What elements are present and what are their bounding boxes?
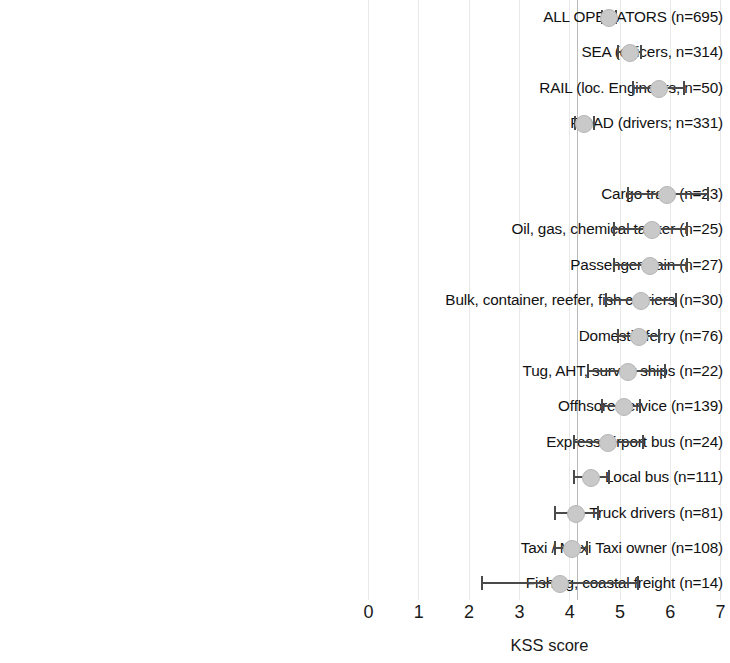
ci-cap-high: [686, 222, 688, 236]
ci-cap-high: [642, 435, 644, 449]
data-row: Local bus (n=111): [0, 466, 723, 488]
ci-cap-high: [664, 364, 666, 378]
data-point-marker: [641, 257, 659, 275]
data-row: Offhsore service (n=139): [0, 395, 723, 417]
ci-cap-high: [686, 258, 688, 272]
data-row: RAIL (loc. Engineers, n=50): [0, 77, 723, 99]
x-axis: 01234567: [0, 600, 723, 634]
ci-cap-low: [617, 329, 619, 343]
ci-cap-high: [707, 187, 709, 201]
ci-cap-low: [613, 222, 615, 236]
row-label: Express/airport bus (n=24): [371, 431, 723, 453]
row-label: ALL OPERATORS (n=695): [371, 6, 723, 28]
row-label: SEA (officers, n=314): [371, 41, 723, 63]
data-row: SEA (officers, n=314): [0, 41, 723, 63]
data-point-marker: [615, 398, 633, 416]
data-row: Cargo train (n=23): [0, 183, 723, 205]
x-tick-label: 1: [399, 602, 439, 623]
ci-cap-low: [627, 187, 629, 201]
ci-cap-low: [481, 576, 483, 590]
x-axis-title-label: KSS score: [511, 636, 589, 654]
data-row: Tug, AHT, survey ships (n=22): [0, 360, 723, 382]
data-row: ALL OPERATORS (n=695): [0, 6, 723, 28]
plot-area: ALL OPERATORS (n=695)SEA (officers, n=31…: [0, 0, 723, 600]
ci-cap-low: [617, 45, 619, 59]
data-point-marker: [619, 363, 637, 381]
data-point-marker: [650, 80, 668, 98]
ci-cap-low: [632, 81, 634, 95]
data-point-marker: [567, 505, 585, 523]
row-label: Offhsore service (n=139): [371, 395, 723, 417]
ci-cap-high: [658, 329, 660, 343]
data-row: Domestic ferry (n=76): [0, 325, 723, 347]
x-tick-label: 6: [650, 602, 690, 623]
data-point-marker: [643, 221, 661, 239]
data-point-marker: [630, 328, 648, 346]
row-label: Domestic ferry (n=76): [371, 325, 723, 347]
data-point-marker: [551, 575, 569, 593]
data-point-marker: [632, 292, 650, 310]
ci-cap-low: [605, 293, 607, 307]
ci-cap-high: [637, 576, 639, 590]
ci-cap-high: [593, 116, 595, 130]
data-row: Oil, gas, chemical tanker (n=25): [0, 218, 723, 240]
x-tick-label: 5: [600, 602, 640, 623]
ci-cap-low: [587, 364, 589, 378]
row-spacer: [0, 148, 723, 170]
x-axis-title: KSS score: [0, 636, 723, 655]
row-label: Local bus (n=111): [371, 466, 723, 488]
data-row: Fishing, coastal freight (n=14): [0, 572, 723, 594]
ci-cap-high: [640, 45, 642, 59]
ci-cap-low: [573, 470, 575, 484]
ci-cap-low: [554, 506, 556, 520]
ci-cap-high: [597, 506, 599, 520]
ci-cap-high: [683, 81, 685, 95]
row-label: Taxi / Maxi Taxi owner (n=108): [371, 537, 723, 559]
x-tick-label: 2: [449, 602, 489, 623]
data-row: Express/airport bus (n=24): [0, 431, 723, 453]
ci-cap-low: [573, 435, 575, 449]
row-label: ROAD (drivers; n=331): [371, 112, 723, 134]
data-row: Bulk, container, reefer, fish carriers (…: [0, 289, 723, 311]
ci-cap-high: [608, 470, 610, 484]
ci-cap-high: [586, 541, 588, 555]
row-label: Truck drivers (n=81): [371, 502, 723, 524]
x-tick-label: 4: [550, 602, 590, 623]
data-row: Passenger train (n=27): [0, 254, 723, 276]
ci-cap-low: [554, 541, 556, 555]
ci-cap-low: [613, 258, 615, 272]
data-point-marker: [563, 540, 581, 558]
ci-cap-high: [639, 399, 641, 413]
ci-cap-low: [601, 399, 603, 413]
data-row: ROAD (drivers; n=331): [0, 112, 723, 134]
x-tick-label: 3: [499, 602, 539, 623]
ci-cap-high: [675, 293, 677, 307]
data-row: Taxi / Maxi Taxi owner (n=108): [0, 537, 723, 559]
data-point-marker: [621, 44, 639, 62]
data-row: Truck drivers (n=81): [0, 502, 723, 524]
x-tick-label: 0: [349, 602, 389, 623]
x-tick-label: 7: [701, 602, 730, 623]
row-label: Tug, AHT, survey ships (n=22): [371, 360, 723, 382]
